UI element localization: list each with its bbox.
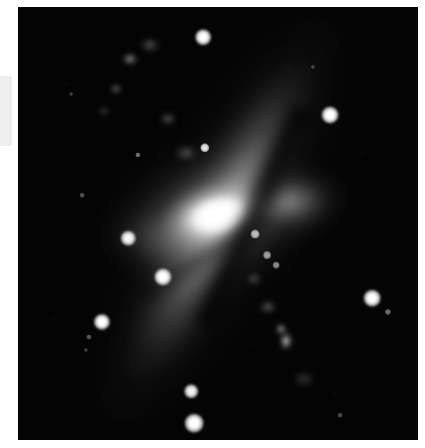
field-star — [364, 290, 381, 307]
field-star — [69, 92, 73, 96]
field-star — [338, 413, 343, 418]
left-gutter-bar — [0, 76, 12, 146]
field-star — [80, 193, 85, 198]
sky-image-plate — [18, 7, 418, 440]
field-star — [385, 309, 391, 315]
image-page — [0, 0, 425, 448]
field-star — [195, 29, 211, 45]
